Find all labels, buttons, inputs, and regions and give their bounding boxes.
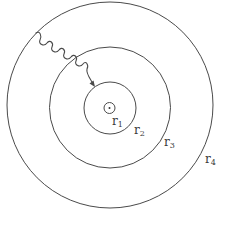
photon-wave-line [36,32,92,82]
label-r4: r4 [205,153,216,167]
orbit-diagram [0,0,225,225]
photon-arrowhead-icon [90,81,96,88]
label-r2: r2 [134,124,145,138]
label-r3-sub: 3 [170,141,175,150]
label-r3: r3 [164,136,175,150]
label-r4-sub: 4 [211,158,216,167]
label-r2-sub: 2 [140,129,145,138]
label-r1-sub: 1 [118,120,123,129]
ring-r4 [7,2,213,208]
label-r1: r1 [112,115,123,129]
nucleus-dot [109,107,111,109]
